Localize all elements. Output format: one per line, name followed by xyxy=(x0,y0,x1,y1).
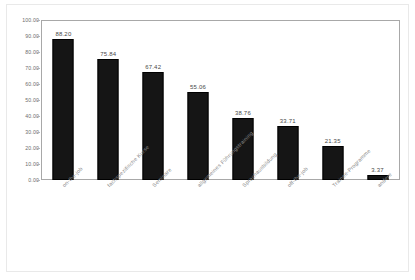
bar[interactable] xyxy=(53,39,74,180)
bar-value-label: 55.06 xyxy=(190,84,206,90)
x-axis-label-slot: Trainee-Programme xyxy=(310,182,355,278)
y-axis: 100.0090.0080.0070.0060.0050.0040.0030.0… xyxy=(0,20,39,180)
bar[interactable] xyxy=(143,72,164,180)
bar-value-label: 33.71 xyxy=(280,118,296,124)
bar-value-label: 3.37 xyxy=(371,167,383,173)
bar-slot: 75.84 xyxy=(86,20,131,180)
y-axis-tick-label: 60.00 xyxy=(3,81,39,87)
y-axis-tick-mark xyxy=(37,180,40,181)
bar-value-label: 67.42 xyxy=(145,64,161,70)
x-axis-label-slot: off-the-job xyxy=(265,182,310,278)
y-axis-tick-mark xyxy=(37,148,40,149)
x-axis-label-slot: on-the-job xyxy=(41,182,86,278)
y-axis-tick-label: 80.00 xyxy=(3,49,39,55)
x-axis-label-slot: Sprachausbildung xyxy=(221,182,266,278)
y-axis-tick-label: 100.00 xyxy=(3,17,39,23)
bar-value-label: 21.35 xyxy=(325,138,341,144)
y-axis-tick-mark xyxy=(37,164,40,165)
y-axis-tick-mark xyxy=(37,84,40,85)
y-axis-tick-label: 70.00 xyxy=(3,65,39,71)
y-axis-tick-label: 40.00 xyxy=(3,113,39,119)
y-axis-tick-mark xyxy=(37,52,40,53)
bar-value-label: 88.20 xyxy=(55,31,71,37)
y-axis-tick-label: 50.00 xyxy=(3,97,39,103)
y-axis-tick-label: 30.00 xyxy=(3,129,39,135)
y-axis-tick-label: 20.00 xyxy=(3,145,39,151)
bars-container: 88.2075.8467.4255.0638.7633.7121.353.37 xyxy=(41,20,400,180)
y-axis-tick-label: 90.00 xyxy=(3,33,39,39)
y-axis-tick-mark xyxy=(37,132,40,133)
x-axis-label-slot: andere xyxy=(355,182,400,278)
bar-slot: 88.20 xyxy=(41,20,86,180)
bar-value-label: 75.84 xyxy=(100,51,116,57)
y-axis-tick-label: 0.00 xyxy=(3,177,39,183)
bar-slot: 21.35 xyxy=(310,20,355,180)
y-axis-tick-mark xyxy=(37,100,40,101)
bar-value-label: 38.76 xyxy=(235,110,251,116)
bar[interactable] xyxy=(188,92,209,180)
y-axis-tick-label: 10.00 xyxy=(3,161,39,167)
chart-figure: 100.0090.0080.0070.0060.0050.0040.0030.0… xyxy=(0,0,415,280)
x-axis: on-the-jobfachspezifische KurseSeminarea… xyxy=(41,182,400,278)
y-axis-tick-mark xyxy=(37,36,40,37)
y-axis-tick-mark xyxy=(37,20,40,21)
x-axis-label-slot: Seminare xyxy=(131,182,176,278)
bar-slot: 55.06 xyxy=(176,20,221,180)
y-axis-tick-mark xyxy=(37,116,40,117)
bar[interactable] xyxy=(277,126,298,180)
x-axis-label-slot: allgemeines Führungstraining xyxy=(176,182,221,278)
x-axis-label-slot: fachspezifische Kurse xyxy=(86,182,131,278)
bar[interactable] xyxy=(98,59,119,180)
y-axis-tick-mark xyxy=(37,68,40,69)
